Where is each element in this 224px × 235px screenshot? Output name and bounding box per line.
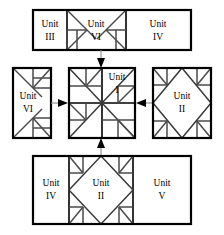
- cell-label-line2: I: [115, 85, 118, 95]
- block-left-bar: Unit VI: [13, 68, 51, 138]
- block-center-unit-i: Unit I: [69, 68, 135, 138]
- cell-label-line2: IV: [46, 191, 56, 201]
- arrow-top-to-center: [97, 50, 105, 68]
- cell-label-line1: Unit: [154, 178, 171, 188]
- cell-label-line2: III: [45, 32, 55, 42]
- cell-label-line2: VI: [23, 104, 33, 114]
- cell-label-line2: II: [179, 104, 185, 114]
- cell-label-line1: Unit: [93, 178, 110, 188]
- cell-label-line1: Unit: [42, 19, 59, 29]
- cell-label-line1: Unit: [88, 19, 105, 29]
- arrow-bottom-to-center: [97, 138, 105, 156]
- cell-label-line2: V: [159, 191, 166, 201]
- cell-label-line2: IV: [153, 32, 163, 42]
- cell-label-line1: Unit: [20, 91, 37, 101]
- arrow-right-to-center: [136, 99, 153, 107]
- block-right-bar: Unit II: [153, 68, 211, 138]
- cell-label-line1: Unit: [43, 178, 60, 188]
- block-top-bar: Unit III Unit VI: [33, 10, 191, 50]
- cell-label-line1: Unit: [150, 19, 167, 29]
- arrow-left-to-center: [51, 99, 68, 107]
- cell-label-line1: Unit: [109, 72, 126, 82]
- cell-label-line2: II: [98, 191, 104, 201]
- diagram-canvas: Unit III Unit VI: [0, 0, 224, 235]
- cell-label-line1: Unit: [174, 91, 191, 101]
- cell-label-line2: VI: [91, 32, 101, 42]
- block-bottom-bar: Unit IV: [33, 156, 191, 224]
